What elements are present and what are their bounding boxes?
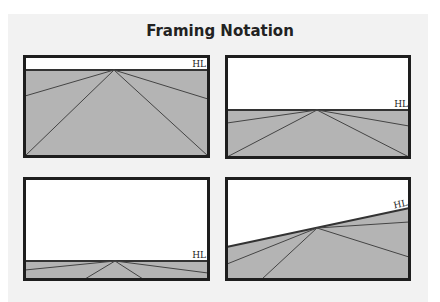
diagram-title: Framing Notation bbox=[0, 22, 440, 40]
frame-tilted-horizon: HL bbox=[225, 177, 411, 281]
horizon-label: HL bbox=[192, 250, 206, 260]
frame-high-horizon: HL bbox=[23, 55, 210, 158]
horizon-label: HL bbox=[192, 59, 206, 69]
frame-middle-horizon: HL bbox=[225, 55, 411, 159]
horizon-label: HL bbox=[394, 99, 408, 109]
frame-low-horizon: HL bbox=[23, 177, 210, 281]
